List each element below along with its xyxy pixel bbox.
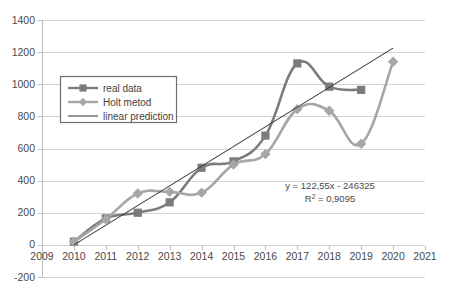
r-squared-label: R2 = 0,9095 [305,193,355,205]
legend-label-2[interactable]: Holt metod [103,97,151,108]
data-point-marker-square [293,59,301,67]
data-point-marker-diamond [133,188,143,198]
x-axis-label: 2011 [95,250,118,262]
y-axis-label: 600 [17,142,35,154]
x-axis-label: 2012 [126,250,150,262]
trend-equation-label: y = 122,55x - 246325 [285,180,375,191]
y-axis-label: 200 [17,206,35,218]
line-chart: -2000200400600800100012001400 2009201020… [0,0,449,294]
x-axis-label: 2020 [381,250,405,262]
gridlines [42,21,425,278]
data-point-marker-square [261,132,269,140]
y-axis-label: 800 [17,110,35,122]
y-axis-label: -200 [14,271,35,283]
x-axis-tick-labels: 2009201020112012201320142015201620172018… [30,250,437,262]
x-axis-label: 2017 [286,250,310,262]
data-point-marker-square [134,209,142,217]
y-axis-label: 400 [17,174,35,186]
y-axis-label: 1400 [12,14,36,26]
data-point-marker-square [357,86,365,94]
x-axis-label: 2014 [190,250,214,262]
axis-lines [38,20,426,278]
legend-label-3[interactable]: linear prediction [103,111,174,122]
chart-container: -2000200400600800100012001400 2009201020… [0,0,449,294]
x-axis-label: 2016 [254,250,278,262]
x-axis-label: 2013 [158,250,182,262]
x-axis-label: 2021 [413,250,437,262]
y-axis-label: 1000 [12,78,36,90]
legend-marker-square [79,84,86,91]
x-axis-label: 2018 [318,250,342,262]
y-axis-tick-labels: -2000200400600800100012001400 [12,14,36,283]
x-axis-label: 2015 [222,250,246,262]
data-point-marker-diamond [388,57,398,67]
legend-label-1[interactable]: real data [103,83,142,94]
chart-annotations: y = 122,55x - 246325R2 = 0,9095 [285,180,375,204]
x-axis-label: 2009 [30,250,54,262]
chart-legend[interactable]: real dataHolt metodlinear prediction [61,77,177,123]
data-point-marker-diamond [196,187,206,197]
y-axis-label: 1200 [12,46,36,58]
x-axis-label: 2010 [62,250,86,262]
x-axis-label: 2019 [349,250,373,262]
data-point-marker-square [166,198,174,206]
